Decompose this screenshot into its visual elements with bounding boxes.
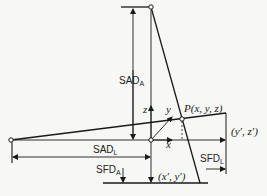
ap-source-point [149,5,153,9]
lateral-source-point [9,138,13,142]
ap-ray [151,7,200,183]
lateral-projection-label: (y′, z′) [231,126,258,137]
sad-l-label: SADL [93,145,117,156]
origin-point [149,138,153,142]
lateral-ray [11,113,226,140]
diagram-lines [0,0,267,196]
sad-a-label: SADA [119,76,144,87]
sfd-a-label: SFDA [96,165,121,176]
sfd-l-label: SFDL [200,154,224,165]
point-p [180,117,184,121]
x-axis-label: x [166,139,171,150]
projection-geometry-diagram: SADA SADL SFDA SFDL P(x, y, z) (y′, z′) … [0,0,267,196]
y-axis-label: y [166,104,171,115]
ap-projection-label: (x′, y′) [158,171,185,182]
z-axis-label: z [143,104,147,115]
point-p-label: P(x, y, z) [184,103,222,114]
